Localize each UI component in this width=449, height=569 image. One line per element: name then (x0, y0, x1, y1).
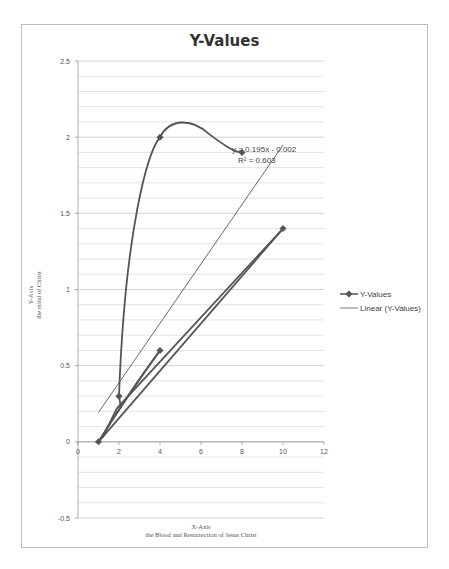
diamond-marker-line-icon (340, 290, 358, 298)
y-axis-sublabel: the mind of Christ (35, 271, 42, 318)
svg-text:2: 2 (117, 448, 121, 455)
trendline-equation: y = 0.195x - 0.002 (232, 145, 296, 154)
legend: Y-Values Linear (Y-Values) (340, 287, 421, 315)
x-axis-title: X-Axis the Blood and Resurrection of Jes… (78, 523, 324, 539)
trendline-r-squared: R² = 0.603 (238, 156, 276, 165)
svg-text:6: 6 (199, 448, 203, 455)
thin-line-icon (340, 304, 358, 312)
svg-text:0: 0 (76, 448, 80, 455)
svg-text:10: 10 (279, 448, 287, 455)
x-axis-sublabel: the Blood and Resurrection of Jesus Chri… (145, 531, 256, 538)
svg-text:0.5: 0.5 (60, 362, 70, 369)
y-axis-title: Y-Axisthe mind of Christ (22, 245, 48, 345)
svg-text:0: 0 (66, 438, 70, 445)
x-axis-label: X-Axis (191, 523, 210, 530)
y-axis-label: Y-Axis (27, 286, 34, 304)
legend-item-y-values: Y-Values (340, 287, 421, 301)
svg-text:-0.5: -0.5 (58, 515, 70, 522)
trendline (99, 145, 284, 412)
data-point-marker (115, 393, 122, 400)
svg-text:8: 8 (240, 448, 244, 455)
svg-text:4: 4 (158, 448, 162, 455)
svg-text:1: 1 (66, 286, 70, 293)
svg-text:2: 2 (66, 134, 70, 141)
series-y-values (95, 122, 287, 445)
svg-text:1.5: 1.5 (60, 210, 70, 217)
legend-item-linear: Linear (Y-Values) (340, 301, 421, 315)
svg-text:2.5: 2.5 (60, 58, 70, 65)
plot-area: 024681012-0.500.511.522.5 (0, 0, 449, 569)
svg-text:12: 12 (320, 448, 328, 455)
